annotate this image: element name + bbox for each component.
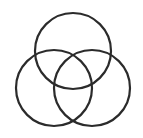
venn-diagram-svg: [0, 0, 143, 138]
venn-diagram: [0, 0, 143, 138]
